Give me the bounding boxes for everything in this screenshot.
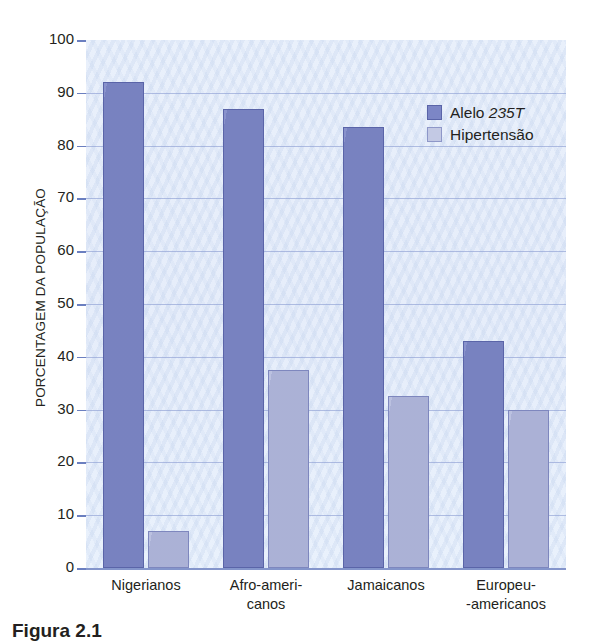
y-axis-tick-mark-20: [77, 462, 86, 464]
y-axis-tick-mark-50: [77, 304, 86, 306]
y-axis-tick-label-80: 80: [22, 136, 74, 153]
legend-label-alelo-235t-italic: 235T: [489, 104, 524, 121]
y-axis-tick-mark-10: [77, 515, 86, 517]
y-axis-tick-label-40: 40: [22, 347, 74, 364]
y-axis-tick-mark-100: [77, 40, 86, 42]
legend-swatch-hipertensao: [427, 127, 442, 142]
legend-item-hipertensao[interactable]: Hipertensão: [427, 124, 534, 145]
y-axis-tick-label-100: 100: [22, 30, 74, 47]
y-axis-tick-label-60: 60: [22, 241, 74, 258]
bar-hipertensao-group-3: [508, 410, 549, 568]
legend-label-alelo-235t: Alelo 235T: [450, 104, 524, 122]
gridline-50: [86, 304, 566, 305]
legend-label-hipertensao: Hipertensão: [450, 126, 534, 144]
legend-label-alelo-235t-plain: Alelo: [450, 104, 489, 121]
legend-item-alelo-235t[interactable]: Alelo 235T: [427, 102, 534, 123]
gridline-60: [86, 251, 566, 252]
bar-alelo-235t-group-2: [343, 127, 384, 568]
gridline-70: [86, 198, 566, 199]
y-axis-tick-mark-30: [77, 410, 86, 412]
y-axis-tick-label-70: 70: [22, 188, 74, 205]
legend-swatch-alelo-235t: [427, 105, 442, 120]
bar-hipertensao-group-1: [268, 370, 309, 568]
legend: Alelo 235T Hipertensão: [427, 102, 534, 146]
bar-hipertensao-group-2: [388, 396, 429, 568]
y-axis-tick-mark-90: [77, 93, 86, 95]
y-axis-tick-mark-80: [77, 146, 86, 148]
y-axis-tick-mark-60: [77, 251, 86, 253]
gridline-0: [86, 568, 566, 570]
figure-caption: Figura 2.1: [12, 620, 102, 642]
y-axis-tick-label-0: 0: [22, 558, 74, 575]
y-axis-tick-mark-0: [77, 568, 86, 570]
bar-alelo-235t-group-0: [103, 82, 144, 568]
bar-hipertensao-group-0: [148, 531, 189, 568]
y-axis-tick-label-20: 20: [22, 452, 74, 469]
y-axis-tick-mark-70: [77, 198, 86, 200]
x-axis-label-3: Europeu- -americanos: [426, 576, 586, 614]
y-axis-tick-label-90: 90: [22, 83, 74, 100]
y-axis-tick-label-10: 10: [22, 505, 74, 522]
bar-alelo-235t-group-3: [463, 341, 504, 568]
bar-alelo-235t-group-1: [223, 109, 264, 568]
y-axis-tick-label-50: 50: [22, 294, 74, 311]
y-axis-tick-mark-40: [77, 357, 86, 359]
gridline-90: [86, 93, 566, 94]
y-axis-tick-label-30: 30: [22, 400, 74, 417]
